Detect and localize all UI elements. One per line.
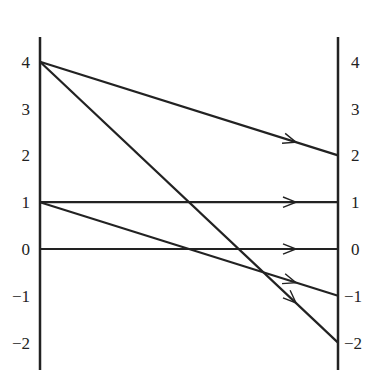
left-tick-label: −1 [12, 287, 30, 306]
right-axis-tick-labels: 43210−1−2 [344, 53, 362, 353]
mapping-segment [40, 197, 338, 207]
left-tick-label: 0 [22, 240, 31, 259]
left-tick-label: 3 [22, 100, 31, 119]
right-tick-label: 0 [351, 240, 360, 259]
left-tick-label: 4 [22, 53, 31, 72]
right-tick-label: −1 [344, 287, 362, 306]
left-tick-label: 2 [22, 146, 31, 165]
right-tick-label: 3 [351, 100, 360, 119]
left-tick-label: −2 [12, 334, 30, 353]
right-tick-label: 4 [351, 53, 360, 72]
left-axis-tick-labels: 43210−1−2 [12, 53, 31, 353]
mapping-segments [40, 62, 338, 343]
left-tick-label: 1 [22, 193, 31, 212]
mapping-diagram: 43210−1−2 43210−1−2 [0, 0, 380, 384]
right-tick-label: 2 [351, 146, 360, 165]
mapping-segment [40, 244, 338, 254]
right-tick-label: −2 [344, 334, 362, 353]
right-tick-label: 1 [351, 193, 360, 212]
mapping-segment [40, 62, 338, 156]
